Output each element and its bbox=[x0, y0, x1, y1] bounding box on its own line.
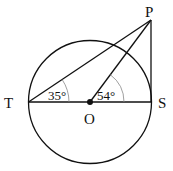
label-T: T bbox=[4, 95, 13, 111]
angle-label-54: 54° bbox=[97, 88, 115, 103]
label-S: S bbox=[158, 95, 166, 111]
label-O: O bbox=[84, 111, 95, 127]
center-point-O bbox=[87, 99, 93, 105]
angle-label-35: 35° bbox=[48, 88, 66, 103]
label-P: P bbox=[145, 4, 153, 20]
geometry-diagram: T S O P 35° 54° bbox=[0, 0, 173, 171]
segment-PT bbox=[29, 20, 152, 102]
